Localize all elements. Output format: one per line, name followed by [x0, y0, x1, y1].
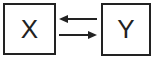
arrow-x-to-y: [59, 31, 97, 39]
node-y-label: Y: [117, 14, 134, 45]
node-y: Y: [101, 3, 151, 56]
arrow-y-to-x: [59, 15, 97, 23]
